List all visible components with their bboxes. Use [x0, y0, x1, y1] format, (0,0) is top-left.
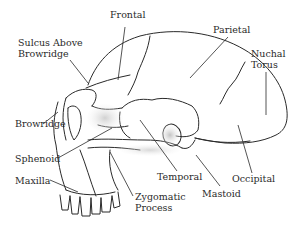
- label-nuchal-torus-line2: Torus: [251, 60, 278, 70]
- label-sphenoid: Sphenoid: [15, 154, 60, 164]
- label-sulcus-above-browridge-line1: Sulcus Above: [18, 38, 83, 48]
- skull-diagram: Frontal Parietal Sulcus Above Browridge …: [0, 0, 299, 232]
- leader-parietal: [190, 37, 228, 78]
- label-zygomatic-process-line1: Zygomatic: [135, 192, 186, 202]
- label-maxilla: Maxilla: [15, 176, 51, 186]
- label-parietal: Parietal: [213, 25, 250, 35]
- label-sulcus-above-browridge-line2: Browridge: [18, 49, 69, 59]
- label-frontal: Frontal: [110, 10, 146, 20]
- label-occipital: Occipital: [232, 174, 275, 184]
- label-zygomatic-process-line2: Process: [135, 203, 172, 213]
- leader-frontal: [118, 27, 125, 80]
- leader-zygomatic: [110, 152, 133, 196]
- label-browridge: Browridge: [15, 119, 66, 129]
- label-mastoid: Mastoid: [202, 189, 241, 199]
- leader-sulcus: [70, 60, 88, 83]
- label-nuchal-torus-line1: Nuchal: [251, 49, 286, 59]
- leader-occipital: [238, 125, 252, 173]
- label-temporal: Temporal: [157, 172, 202, 182]
- leader-maxilla: [50, 180, 78, 192]
- leader-sphenoid: [58, 128, 112, 158]
